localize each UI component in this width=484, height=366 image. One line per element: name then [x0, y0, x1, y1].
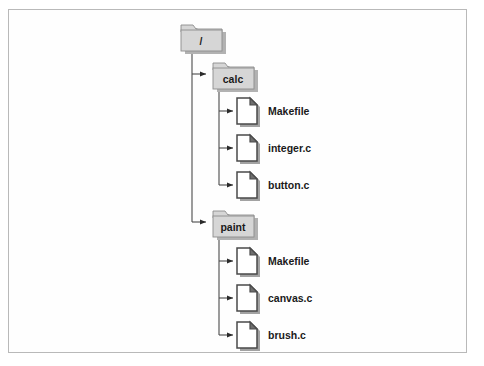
node-root-label: /	[200, 35, 203, 47]
file-icon	[237, 322, 260, 351]
node-calc-file-3-label: button.c	[268, 179, 310, 191]
node-paint-file-1[interactable]: Makefile	[237, 248, 310, 277]
directory-tree-diagram: / calc Makefile integer.c button.c paint	[0, 0, 484, 366]
file-icon	[237, 248, 260, 277]
node-calc-file-1[interactable]: Makefile	[237, 98, 310, 127]
figure-container: / calc Makefile integer.c button.c paint	[0, 0, 484, 366]
node-paint-file-2[interactable]: canvas.c	[237, 285, 313, 314]
folder-icon	[181, 25, 226, 54]
node-calc-label: calc	[223, 73, 244, 85]
node-paint-file-3[interactable]: brush.c	[237, 322, 306, 351]
node-paint-file-1-label: Makefile	[268, 255, 310, 267]
node-paint-label: paint	[220, 221, 246, 233]
node-root[interactable]: /	[181, 25, 226, 54]
node-calc[interactable]: calc	[213, 63, 258, 92]
file-icon	[237, 135, 260, 164]
file-icon	[237, 98, 260, 127]
connector-group	[192, 50, 233, 335]
node-calc-file-3[interactable]: button.c	[237, 172, 310, 201]
node-paint[interactable]: paint	[213, 211, 258, 240]
file-icon	[237, 285, 260, 314]
node-paint-file-2-label: canvas.c	[268, 292, 313, 304]
node-calc-file-1-label: Makefile	[268, 105, 310, 117]
node-calc-file-2[interactable]: integer.c	[237, 135, 311, 164]
file-icon	[237, 172, 260, 201]
node-calc-file-2-label: integer.c	[268, 142, 311, 154]
node-paint-file-3-label: brush.c	[268, 329, 306, 341]
